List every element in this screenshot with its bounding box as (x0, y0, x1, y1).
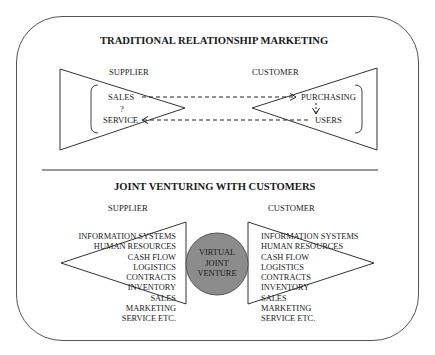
list-item: MARKETING (79, 304, 177, 314)
list-item: HUMAN RESOURCES (261, 242, 359, 252)
list-item: MARKETING (261, 304, 359, 314)
list-item: INVENTORY (79, 283, 177, 293)
list-item: INFORMATION SYSTEMS (261, 232, 359, 242)
list-item: SALES (261, 294, 359, 304)
list-item: CASH FLOW (79, 253, 177, 263)
list-item: CONTRACTS (79, 273, 177, 283)
circle-line-1: VIRTUAL (187, 248, 247, 259)
customer-triangle-top (252, 68, 377, 150)
list-item: HUMAN RESOURCES (79, 242, 177, 252)
traditional-title: TRADITIONAL RELATIONSHIP MARKETING (100, 36, 328, 46)
supplier-functions-list: INFORMATION SYSTEMS HUMAN RESOURCES CASH… (79, 232, 177, 325)
list-item: INVENTORY (261, 283, 359, 293)
list-item: INFORMATION SYSTEMS (79, 232, 177, 242)
diagram-shapes (0, 0, 435, 355)
list-item: SERVICE ETC. (79, 314, 177, 324)
joint-venturing-title: JOINT VENTURING WITH CUSTOMERS (114, 182, 315, 192)
customer-label-bottom: CUSTOMER (268, 203, 315, 213)
circle-line-3: VENTURE (187, 269, 247, 280)
list-item: SERVICE ETC. (261, 314, 359, 324)
users-label: USERS (315, 115, 342, 125)
list-item: LOGISTICS (261, 263, 359, 273)
supplier-bracket (91, 85, 98, 133)
circle-line-2: JOINT (187, 259, 247, 270)
list-item: SALES (79, 294, 177, 304)
supplier-label-top: SUPPLIER (109, 67, 149, 77)
service-label: SERVICE (103, 115, 138, 125)
list-item: LOGISTICS (79, 263, 177, 273)
virtual-joint-venture-label: VIRTUAL JOINT VENTURE (187, 248, 247, 280)
question-mark: ? (120, 104, 124, 114)
customer-label-top: CUSTOMER (252, 67, 299, 77)
sales-label: SALES (108, 92, 134, 102)
customer-functions-list: INFORMATION SYSTEMS HUMAN RESOURCES CASH… (261, 232, 359, 325)
customer-bracket (355, 85, 362, 133)
purchasing-label: PURCHASING (301, 92, 356, 102)
supplier-label-bottom: SUPPLIER (108, 203, 148, 213)
list-item: CONTRACTS (261, 273, 359, 283)
list-item: CASH FLOW (261, 253, 359, 263)
